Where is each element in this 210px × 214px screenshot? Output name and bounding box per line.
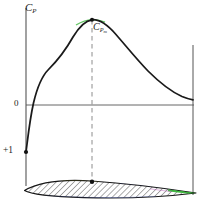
cp-distribution-curve	[26, 20, 193, 152]
zero-tick-label: 0	[14, 99, 19, 108]
stagnation-point-marker	[24, 150, 28, 154]
cp-distribution-figure: CP CPm 0 +1	[0, 0, 210, 214]
peak-suction-label: CPm	[93, 22, 107, 32]
plus-one-tick-label: +1	[3, 146, 13, 156]
y-axis-label: CP	[25, 2, 37, 13]
airfoil-chord-station-marker	[90, 180, 94, 184]
